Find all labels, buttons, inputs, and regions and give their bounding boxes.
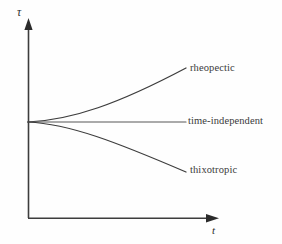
x-axis-label: t <box>212 224 215 236</box>
curve-label-thixotropic: thixotropic <box>190 164 237 175</box>
curve-label-time-independent: time-independent <box>188 115 263 126</box>
curve-label-rheopectic: rheopectic <box>190 62 235 73</box>
y-axis-arrowhead <box>24 18 32 30</box>
curve-rheopectic <box>28 68 186 122</box>
curve-thixotropic <box>28 122 186 172</box>
rheology-figure: τ t rheopectic time-independent thixotro… <box>0 0 282 244</box>
x-axis-arrowhead <box>206 214 219 223</box>
y-axis-label: τ <box>17 6 21 18</box>
